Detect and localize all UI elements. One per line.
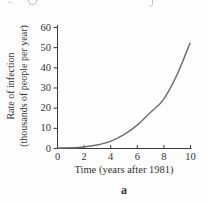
x-tick-label: 0 bbox=[55, 151, 60, 162]
y-tick-label: 50 bbox=[41, 42, 52, 53]
y-tick-label: 10 bbox=[41, 122, 52, 133]
x-tick-label: 10 bbox=[185, 151, 196, 162]
line-chart: 01020304050600246810Rate of infection(th… bbox=[0, 0, 209, 202]
y-axis-title-line1: Rate of infection bbox=[5, 52, 16, 119]
y-tick-label: 40 bbox=[41, 62, 52, 73]
x-axis-title: Time (years after 1981) bbox=[74, 164, 174, 176]
y-tick-label: 0 bbox=[46, 143, 51, 154]
x-tick-label: 6 bbox=[135, 151, 140, 162]
figure-infection-rate-chart: 01020304050600246810Rate of infection(th… bbox=[0, 0, 209, 202]
y-axis-title-line2: (thousands of people per year) bbox=[18, 25, 30, 147]
y-tick-label: 20 bbox=[41, 102, 52, 113]
x-tick-label: 4 bbox=[108, 151, 114, 162]
y-tick-label: 60 bbox=[41, 22, 52, 33]
x-tick-label: 2 bbox=[81, 151, 86, 162]
y-tick-label: 30 bbox=[41, 82, 52, 93]
figure-sublabel: a bbox=[57, 183, 191, 198]
rate-of-infection-curve bbox=[57, 43, 190, 148]
x-tick-label: 8 bbox=[161, 151, 166, 162]
